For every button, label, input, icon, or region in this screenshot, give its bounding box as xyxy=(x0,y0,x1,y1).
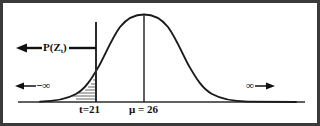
mu-value-label: μ = 26 xyxy=(129,104,158,115)
positive-infinity-label: ∞ xyxy=(246,80,254,91)
negative-infinity-label: −∞ xyxy=(36,80,50,91)
probability-label-text: P(Z xyxy=(43,41,61,53)
normal-curve-figure: P(Zt) −∞ ∞ t=21 μ = 26 xyxy=(0,0,320,126)
t-value-label: t=21 xyxy=(79,104,100,115)
probability-label-close: ) xyxy=(63,41,67,53)
figure-canvas xyxy=(0,0,320,126)
figure-border-inner xyxy=(4,4,316,122)
probability-label: P(Zt) xyxy=(43,42,67,55)
